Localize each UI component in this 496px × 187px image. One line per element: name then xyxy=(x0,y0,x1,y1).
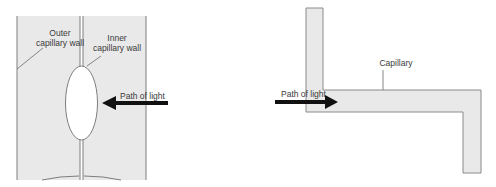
l-shaped-capillary xyxy=(306,8,481,173)
outer-wall-label-1: Outer xyxy=(49,28,70,38)
left-capillary-diagram: Outer capillary wall Inner capillary wal… xyxy=(17,16,168,180)
light-path-label-right: Path of light xyxy=(281,89,327,99)
light-path-label-left: Path of light xyxy=(120,91,166,101)
bubble-ellipse xyxy=(66,66,98,140)
capillary-label: Capillary xyxy=(379,58,413,68)
outer-wall-label-2: capillary wall xyxy=(36,38,84,48)
inner-wall-label-1: Inner xyxy=(107,33,127,43)
right-capillary-diagram: Capillary Path of light xyxy=(275,8,481,173)
diagram-canvas: Outer capillary wall Inner capillary wal… xyxy=(0,0,496,187)
inner-wall-label-2: capillary wall xyxy=(93,43,141,53)
